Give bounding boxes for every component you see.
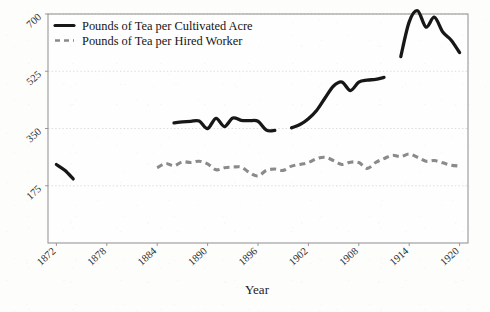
y-tick-label: 525 [24, 69, 43, 88]
x-tick-label: 1872 [35, 245, 58, 267]
x-tick-label: 1902 [287, 245, 310, 267]
x-tick-label: 1908 [337, 245, 360, 267]
tea-yield-line-chart: 187218781884189018961902190819141920 175… [0, 0, 490, 312]
chart-legend: Pounds of Tea per Cultivated Acre Pounds… [55, 19, 253, 48]
x-tick-label: 1878 [85, 245, 108, 267]
y-tick-label: 700 [24, 11, 43, 30]
x-tick-label: 1884 [136, 245, 160, 268]
x-tick-label: 1896 [236, 245, 259, 267]
legend-label-hired-worker: Pounds of Tea per Hired Worker [82, 34, 243, 48]
x-axis-title: Year [245, 282, 270, 297]
chart-page: 187218781884189018961902190819141920 175… [0, 0, 490, 312]
x-tick-labels: 187218781884189018961902190819141920 [35, 243, 461, 268]
x-tick-label: 1914 [388, 245, 412, 268]
y-tick-labels: 175350525700 [24, 11, 48, 201]
y-tick-label: 350 [24, 126, 43, 145]
y-tick-label: 175 [24, 183, 43, 202]
x-tick-label: 1890 [186, 245, 209, 267]
legend-label-cultivated-acre: Pounds of Tea per Cultivated Acre [82, 19, 253, 33]
x-tick-label: 1920 [438, 245, 461, 267]
